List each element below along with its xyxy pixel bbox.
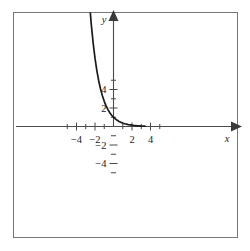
x-axis-label: x bbox=[224, 133, 230, 144]
figure-background bbox=[0, 0, 250, 251]
y-tick-label: −2 bbox=[95, 140, 106, 151]
y-tick-label: −4 bbox=[95, 158, 107, 169]
x-tick-label: 2 bbox=[129, 134, 134, 145]
x-tick-label: 4 bbox=[148, 134, 154, 145]
y-axis-label: y bbox=[101, 14, 107, 25]
graph-figure: −4−22442−2−4 x y bbox=[0, 0, 250, 251]
coordinate-plane: −4−22442−2−4 x y bbox=[0, 0, 250, 251]
x-tick-label: −4 bbox=[71, 134, 83, 145]
